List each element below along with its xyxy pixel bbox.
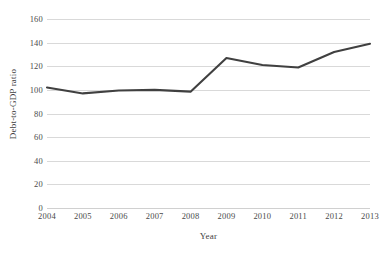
y-tick-label-140: 140 <box>3 38 43 47</box>
y-tick-label-0: 0 <box>3 204 43 213</box>
series-line-debt-to-gdp-ratio <box>47 19 370 208</box>
y-tick-label-120: 120 <box>3 62 43 71</box>
y-tick-label-160: 160 <box>3 15 43 24</box>
x-tick-label-2007: 2007 <box>135 212 175 221</box>
y-tick-label-60: 60 <box>3 133 43 142</box>
y-axis-tick-labels: 020406080100120140160 <box>0 19 43 208</box>
x-axis-title: Year <box>47 231 370 241</box>
x-tick-label-2009: 2009 <box>206 212 246 221</box>
x-tick-label-2006: 2006 <box>99 212 139 221</box>
y-tick-label-20: 20 <box>3 180 43 189</box>
line-chart: Debt-to-GDP ratio 020406080100120140160 … <box>0 0 388 253</box>
gridline-0 <box>47 208 370 209</box>
y-tick-label-100: 100 <box>3 86 43 95</box>
y-tick-label-40: 40 <box>3 157 43 166</box>
x-tick-label-2004: 2004 <box>27 212 67 221</box>
x-axis-tick-labels: 2004200520062007200820092010201120122013 <box>47 212 370 228</box>
x-tick-label-2011: 2011 <box>278 212 318 221</box>
x-tick-label-2013: 2013 <box>350 212 388 221</box>
y-tick-label-80: 80 <box>3 109 43 118</box>
plot-area <box>47 19 370 208</box>
x-tick-label-2005: 2005 <box>63 212 103 221</box>
x-tick-label-2012: 2012 <box>314 212 354 221</box>
x-tick-label-2008: 2008 <box>171 212 211 221</box>
x-tick-label-2010: 2010 <box>242 212 282 221</box>
